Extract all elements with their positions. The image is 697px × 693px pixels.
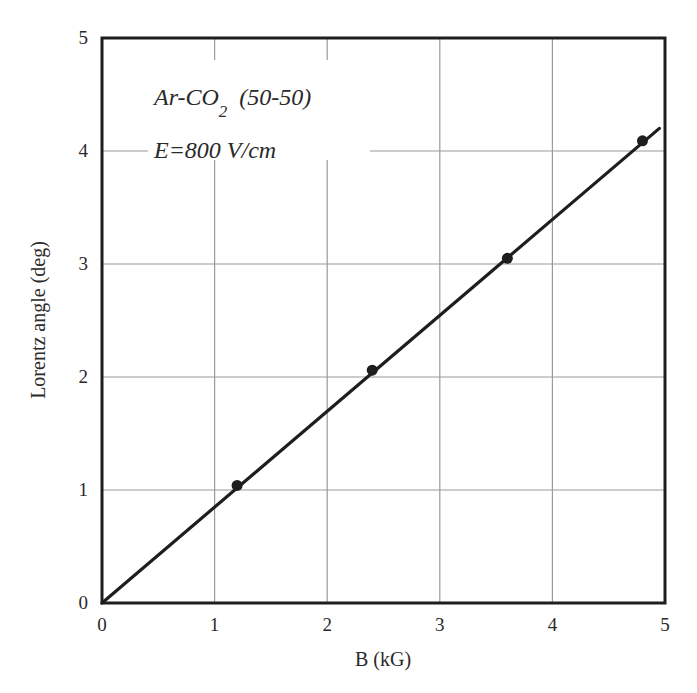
y-tick-label: 5: [79, 27, 89, 48]
annotation-box: Ar-CO2(50-50) E=800 V/cm: [148, 60, 370, 163]
y-tick-label: 4: [79, 140, 89, 161]
data-point: [502, 253, 513, 264]
data-point: [232, 480, 243, 491]
x-tick-labels: 012345: [97, 614, 670, 635]
lorentz-angle-chart: 012345 012345 B (kG) Lorentz angle (deg)…: [0, 0, 697, 693]
y-tick-label: 2: [79, 366, 89, 387]
data-point: [637, 135, 648, 146]
x-tick-label: 3: [435, 614, 445, 635]
y-tick-labels: 012345: [79, 27, 89, 613]
y-tick-label: 0: [79, 592, 89, 613]
x-tick-label: 0: [97, 614, 107, 635]
fit-line: [102, 128, 659, 603]
y-axis-label: Lorentz angle (deg): [27, 241, 50, 399]
y-tick-label: 1: [79, 479, 89, 500]
annotation-field: E=800 V/cm: [153, 137, 276, 163]
y-tick-label: 3: [79, 253, 89, 274]
fit-line-segment: [102, 128, 659, 603]
x-tick-label: 1: [210, 614, 220, 635]
x-tick-label: 5: [660, 614, 670, 635]
x-tick-label: 4: [548, 614, 558, 635]
x-axis-label: B (kG): [355, 648, 411, 671]
data-point: [367, 365, 378, 376]
x-tick-label: 2: [322, 614, 332, 635]
